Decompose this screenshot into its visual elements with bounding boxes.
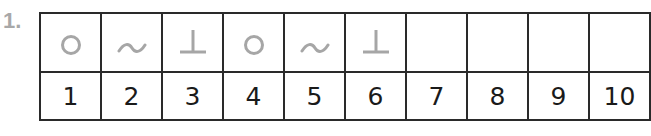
pattern-table: 1 2 3 4 5 6 7 8 9 10: [39, 12, 651, 121]
number-cell: 5: [284, 72, 345, 120]
symbol-row: [40, 13, 650, 72]
symbol-cell-7[interactable]: [406, 13, 467, 72]
symbol-cell-5[interactable]: [284, 13, 345, 72]
number-cell: 3: [162, 72, 223, 120]
number-cell: 8: [467, 72, 528, 120]
number-cell: 2: [101, 72, 162, 120]
symbol-cell-1[interactable]: [40, 13, 101, 72]
circle-icon: [61, 35, 81, 55]
number-cell: 1: [40, 72, 101, 120]
number-cell: 10: [589, 72, 650, 120]
number-cell: 4: [223, 72, 284, 120]
circle-icon: [244, 35, 264, 55]
symbol-cell-9[interactable]: [528, 13, 589, 72]
symbol-cell-3[interactable]: [162, 13, 223, 72]
number-cell: 9: [528, 72, 589, 120]
symbol-cell-8[interactable]: [467, 13, 528, 72]
perpendicular-icon: [362, 29, 390, 55]
perpendicular-icon: [179, 29, 207, 55]
number-cell: 6: [345, 72, 406, 120]
symbol-cell-2[interactable]: [101, 13, 162, 72]
tilde-icon: [300, 41, 330, 55]
number-row: 1 2 3 4 5 6 7 8 9 10: [40, 72, 650, 120]
number-cell: 7: [406, 72, 467, 120]
tilde-icon: [117, 41, 147, 55]
symbol-cell-4[interactable]: [223, 13, 284, 72]
symbol-cell-10[interactable]: [589, 13, 650, 72]
problem-number: 1.: [3, 8, 21, 34]
symbol-cell-6[interactable]: [345, 13, 406, 72]
